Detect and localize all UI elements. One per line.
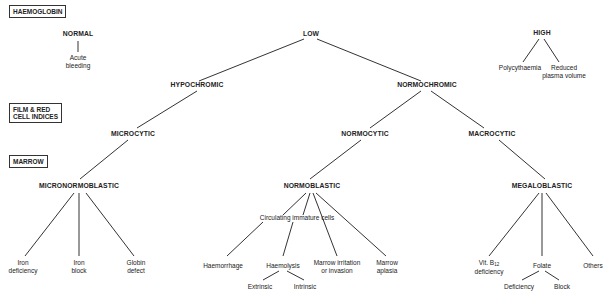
node-high: HIGH bbox=[533, 29, 550, 37]
node-text: or invasion bbox=[321, 267, 352, 274]
section-label-text: FILM & RED bbox=[13, 106, 50, 113]
node-text: deficiency bbox=[9, 267, 38, 274]
node-haemorrhage: Haemorrhage bbox=[203, 262, 243, 270]
edge-low-normochromic bbox=[317, 39, 421, 81]
node-folate-deficiency: Deficiency bbox=[504, 283, 534, 291]
node-haemolysis: Haemolysis bbox=[266, 262, 300, 270]
edge-folate-deficiency bbox=[522, 271, 539, 280]
edge-normocytic-normoblastic bbox=[310, 140, 361, 179]
edge-micro-globin bbox=[86, 193, 134, 256]
node-folate: Folate bbox=[533, 262, 551, 270]
section-label-marrow: MARROW bbox=[9, 155, 48, 168]
edge-circ-haemolysis bbox=[283, 222, 293, 256]
node-subscript: 12 bbox=[494, 262, 499, 267]
edge-haemolysis-intrinsic bbox=[287, 271, 304, 280]
edge-normochromic-normocytic bbox=[370, 91, 421, 128]
edge-circ-haemorrhage bbox=[227, 222, 263, 256]
section-label-text: HAEMOGLOBIN bbox=[13, 8, 62, 15]
node-low: LOW bbox=[303, 30, 319, 38]
node-text: block bbox=[71, 267, 86, 274]
edge-normo-circ-left bbox=[283, 193, 306, 215]
node-text: aplasia bbox=[377, 267, 398, 274]
section-label-haemoglobin: HAEMOGLOBIN bbox=[9, 5, 66, 18]
edge-haemolysis-extrinsic bbox=[263, 271, 279, 280]
node-text: Reduced bbox=[551, 64, 577, 71]
node-text: Iron bbox=[73, 259, 84, 266]
edge-micro-irondef bbox=[25, 193, 74, 256]
node-micronormoblastic: MICRONORMOBLASTIC bbox=[39, 182, 119, 190]
node-text: Globin bbox=[127, 259, 146, 266]
node-globin-defect: Globin defect bbox=[127, 259, 146, 274]
edge-microcytic-micronormoblastic bbox=[80, 140, 128, 179]
node-text: defect bbox=[127, 267, 145, 274]
node-macrocytic: MACROCYTIC bbox=[468, 130, 515, 138]
edge-high-reduced bbox=[544, 39, 559, 62]
edge-normo-circ-right bbox=[303, 193, 310, 215]
node-normocytic: NORMOCYTIC bbox=[341, 130, 388, 138]
node-marrow-aplasia: Marrow aplasia bbox=[376, 259, 398, 274]
edge-mega-vitb12 bbox=[489, 193, 539, 256]
edge-hypochromic-microcytic bbox=[137, 91, 197, 128]
node-megaloblastic: MEGALOBLASTIC bbox=[512, 182, 573, 190]
node-normal: NORMAL bbox=[63, 30, 93, 38]
node-microcytic: MICROCYTIC bbox=[111, 130, 155, 138]
section-label-text: MARROW bbox=[13, 158, 44, 165]
edge-normochromic-macrocytic bbox=[431, 91, 484, 128]
node-text: deficiency bbox=[475, 268, 504, 275]
node-text: plasma volume bbox=[542, 72, 586, 79]
node-polycythaemia: Polycythaemia bbox=[499, 64, 541, 72]
node-hypochromic: HYPOCHROMIC bbox=[171, 81, 224, 89]
node-marrow-irritation: Marrow irritation or invasion bbox=[314, 259, 361, 274]
node-text: Acute bbox=[70, 54, 87, 61]
edge-normo-marrowirr bbox=[313, 193, 337, 256]
node-text: Vit. B bbox=[479, 259, 494, 266]
node-circulating-immature-cells: Circulating immature cells bbox=[260, 214, 334, 222]
node-text: bleeding bbox=[66, 62, 91, 69]
edge-mega-others bbox=[546, 193, 593, 256]
node-iron-block: Iron block bbox=[71, 259, 86, 274]
edge-macrocytic-megaloblastic bbox=[499, 140, 545, 179]
node-text: Marrow bbox=[376, 259, 398, 266]
node-normochromic: NORMOCHROMIC bbox=[397, 81, 457, 89]
section-label-text: CELL INDICES bbox=[13, 113, 58, 120]
node-folate-block: Block bbox=[554, 283, 570, 291]
node-vit-b12-deficiency: Vit. B12 deficiency bbox=[475, 259, 504, 275]
node-others: Others bbox=[583, 262, 603, 270]
edge-high-polycythaemia bbox=[523, 39, 539, 62]
edge-folate-block bbox=[545, 271, 559, 280]
node-text: Marrow irritation bbox=[314, 259, 361, 266]
node-intrinsic: Intrinsic bbox=[294, 283, 316, 291]
node-reduced-plasma-volume: Reduced plasma volume bbox=[542, 64, 586, 79]
node-text: Iron bbox=[17, 259, 28, 266]
connector-lines bbox=[0, 0, 608, 298]
node-extrinsic: Extrinsic bbox=[248, 283, 273, 291]
section-label-film-indices: FILM & RED CELL INDICES bbox=[9, 103, 62, 123]
edge-normo-aplasia bbox=[316, 193, 386, 256]
node-normoblastic: NORMOBLASTIC bbox=[284, 182, 341, 190]
edge-low-hypochromic bbox=[199, 39, 304, 81]
node-iron-deficiency: Iron deficiency bbox=[9, 259, 38, 274]
node-acute-bleeding: Acute bleeding bbox=[66, 54, 91, 69]
